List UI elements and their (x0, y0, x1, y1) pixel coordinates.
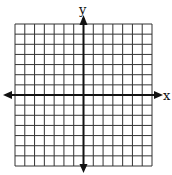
coordinate-plane: x y (0, 0, 172, 175)
y-axis-label: y (78, 2, 87, 17)
y-axis-down-arrow-icon (80, 164, 88, 173)
x-axis-right-arrow-icon (154, 91, 163, 99)
x-axis-left-arrow-icon (3, 91, 12, 99)
x-axis-label: x (163, 88, 171, 103)
